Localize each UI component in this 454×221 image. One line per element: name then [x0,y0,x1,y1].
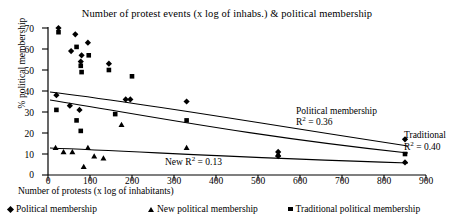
data-point-diamond [68,48,74,54]
data-point-triangle [85,145,91,150]
annotation-political-r2-value: = 0.36 [306,117,333,127]
data-point-triangle [119,122,125,127]
data-point-diamond [76,107,82,113]
y-axis-ticks [42,28,48,175]
data-point-diamond [184,98,190,104]
scatter-chart: Number of protest events (x log of inhab… [0,0,454,221]
data-point-diamond [127,96,133,102]
annotation-traditional-label: Traditional [404,130,446,140]
trendline-political-membership [50,92,408,146]
square-marker-icon [288,207,293,212]
data-point-triangle [81,164,87,169]
data-point-square [54,108,59,113]
data-point-triangle [184,145,190,150]
data-point-diamond [402,159,408,165]
data-point-triangle [91,153,97,158]
data-point-triangle [53,145,59,150]
annotation-traditional-r2: R2 = 0.40 [404,142,441,153]
data-point-triangle [100,155,106,160]
legend-item-political-membership: Political membership [8,203,97,215]
legend-label-political-membership: Political membership [16,203,97,215]
annotation-traditional-r2-value: = 0.40 [414,142,441,152]
diamond-marker-icon [7,205,14,212]
data-point-square [74,118,79,123]
plot-area [0,0,454,221]
annotation-political-label: Political membership [296,106,377,116]
data-point-square [74,45,79,50]
legend-item-traditional-political-membership: Traditional political membership [288,203,420,215]
annotation-political-r2: R2 = 0.36 [296,117,333,128]
legend-label-traditional-political-membership: Traditional political membership [296,203,421,215]
data-point-square [79,70,84,75]
data-point-square [78,64,83,69]
data-point-square [86,53,91,58]
x-axis-ticks [48,175,426,181]
data-point-square [130,74,135,79]
triangle-marker-icon [148,207,154,212]
data-point-diamond [72,31,78,37]
data-point-square [56,30,61,35]
data-point-square [184,118,189,123]
data-point-diamond [106,61,112,67]
data-point-square [107,68,112,73]
data-point-diamond [79,52,85,58]
data-point-diamond [85,40,91,46]
annotation-political-membership: Political membership [296,106,377,117]
data-point-triangle [61,149,67,154]
annotation-new-r2-value: = 0.13 [195,157,222,167]
chart-legend: Political membership New political membe… [0,203,454,219]
trendline-new-membership [50,148,408,163]
data-point-triangle [69,149,75,154]
data-point-square [113,112,118,117]
annotation-new-r2: New R2 = 0.13 [165,157,222,168]
data-point-square [78,129,83,134]
annotation-new-label: New R [165,157,192,167]
legend-label-new-political-membership: New political membership [157,203,258,215]
legend-item-new-political-membership: New political membership [148,203,258,215]
